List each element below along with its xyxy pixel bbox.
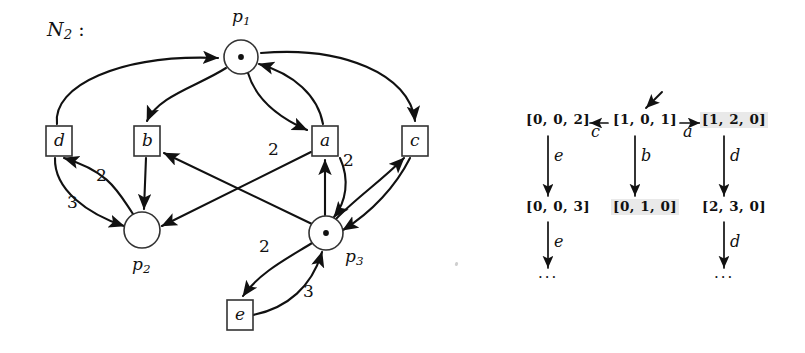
tree-node-1-0-1[interactable]: [1, 0, 1]: [611, 112, 679, 128]
tree-edge-label-e2: e: [554, 234, 563, 250]
tree-edge-label-c: c: [591, 124, 600, 140]
tree-node-1-2-0[interactable]: [1, 2, 0]: [700, 112, 768, 128]
tree-node-0-0-3[interactable]: [0, 0, 3]: [524, 199, 592, 215]
tree-edges: [0, 0, 805, 353]
tree-edge-label-e1: e: [554, 148, 563, 164]
tree-node-0-1-0[interactable]: [0, 1, 0]: [611, 199, 679, 215]
tree-ellipsis-left: ...: [538, 266, 558, 281]
tree-edge-label-d1: d: [730, 148, 740, 164]
tree-edge-label-a: a: [683, 124, 693, 140]
tree-edge-label-d2: d: [730, 234, 740, 250]
tree-ellipsis-right: ...: [714, 266, 734, 281]
root-incoming-arrow-icon: [646, 92, 662, 108]
tree-edge-label-b: b: [641, 148, 651, 164]
tree-node-2-3-0[interactable]: [2, 3, 0]: [700, 199, 768, 215]
tree-node-0-0-2[interactable]: [0, 0, 2]: [524, 112, 592, 128]
figure-canvas: N2 : p1 p2 p3 d b a c e 2 3 2 2 2 3: [0, 0, 805, 353]
